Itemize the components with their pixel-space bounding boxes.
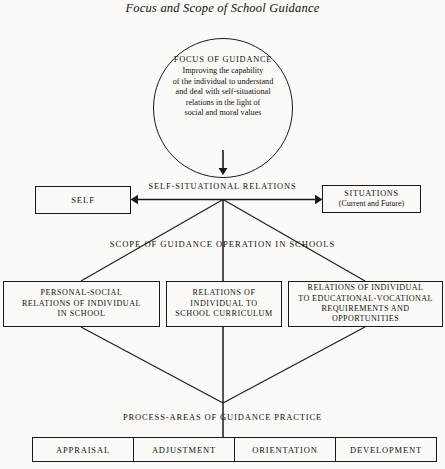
situations-box: SITUATIONS (Current and Future) [322,185,421,213]
situations-box-line: SITUATIONS [339,189,404,199]
focus-of-guidance-text: FOCUS OF GUIDANCE Improving the capabili… [153,55,293,119]
diagram-page: Focus and Scope of School Guidance FOCUS… [0,0,445,469]
process-cell-adjustment: ADJUSTMENT [134,438,235,461]
focus-circle-heading: FOCUS OF GUIDANCE [153,55,293,64]
connector-left-diagonal-lower [81,327,223,403]
diagram-title: Focus and Scope of School Guidance [0,1,445,16]
focus-circle-body-line: Improving the capability [153,66,293,77]
situations-box-line: (Current and Future) [339,199,404,209]
scope-box-line: RELATIONS OF INDIVIDUAL [298,283,433,293]
self-box-label: SELF [71,195,95,205]
scope-box-line: SCHOOL CURRICULUM [175,309,272,319]
scope-box-educational-vocational: RELATIONS OF INDIVIDUAL TO EDUCATIONAL-V… [288,281,443,327]
focus-circle-body-line: relations in the light of [153,98,293,109]
focus-circle-body-line: social and moral values [153,108,293,119]
process-cell-development: DEVELOPMENT [336,438,436,461]
scope-box-line: TO EDUCATIONAL-VOCATIONAL [298,294,433,304]
process-cell-appraisal: APPRAISAL [33,438,134,461]
scope-box-line: RELATIONS OF [175,288,272,298]
scope-box-line: REQUIREMENTS AND [298,304,433,314]
scope-box-personal-social: PERSONAL-SOCIAL RELATIONS OF INDIVIDUAL … [3,281,160,327]
scope-box-line: PERSONAL-SOCIAL [22,288,141,298]
scope-box-line: INDIVIDUAL TO [175,299,272,309]
connector-right-diagonal-lower [223,327,365,403]
scope-box-line: IN SCHOOL [22,309,141,319]
process-cell-orientation: ORIENTATION [235,438,336,461]
self-box: SELF [35,186,131,214]
focus-circle-body-line: and deal with self-situational [153,87,293,98]
process-areas-table: APPRAISAL ADJUSTMENT ORIENTATION DEVELOP… [32,437,437,462]
focus-circle-body-line: of the individual to understand [153,77,293,88]
scope-box-school-curriculum: RELATIONS OF INDIVIDUAL TO SCHOOL CURRIC… [166,281,282,327]
process-areas-label: PROCESS-AREAS OF GUIDANCE PRACTICE [0,412,445,422]
scope-box-line: OPPORTUNITIES [298,314,433,324]
scope-box-line: RELATIONS OF INDIVIDUAL [22,299,141,309]
focus-circle-body: Improving the capability of the individu… [153,66,293,119]
scope-of-guidance-label: SCOPE OF GUIDANCE OPERATION IN SCHOOLS [0,239,445,249]
